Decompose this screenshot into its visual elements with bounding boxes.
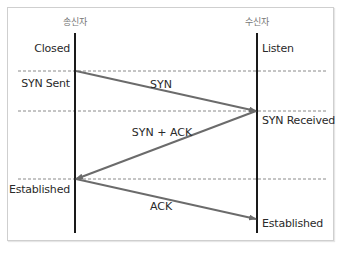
sender-header: 송신자 xyxy=(63,15,87,28)
receiver-header: 수신자 xyxy=(245,15,269,28)
ack-label: ACK xyxy=(150,200,172,213)
sender-state-closed: Closed xyxy=(34,42,70,55)
receiver-state-established: Established xyxy=(262,217,323,230)
ack-arrow xyxy=(76,179,256,219)
receiver-state-syn-received: SYN Received xyxy=(262,114,335,127)
syn-ack-arrow xyxy=(76,111,256,179)
sender-state-established: Established xyxy=(9,183,70,196)
sender-state-syn-sent: SYN Sent xyxy=(21,77,70,90)
receiver-state-listen: Listen xyxy=(262,42,294,55)
syn-ack-label: SYN + ACK xyxy=(132,126,192,139)
syn-arrow xyxy=(76,71,256,111)
syn-label: SYN xyxy=(150,78,172,91)
